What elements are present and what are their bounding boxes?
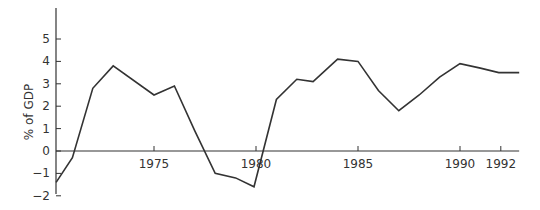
y-tick-label: 2 (42, 99, 50, 113)
y-tick-label: −2 (32, 189, 50, 203)
line-chart: −2−1012345 19751980198519901992 % of GDP (0, 0, 540, 210)
x-tick-label: 1992 (486, 157, 517, 171)
y-tick-label: 1 (42, 122, 50, 136)
y-tick-label: 3 (42, 77, 50, 91)
y-tick-label: −1 (32, 166, 50, 180)
y-tick-label: 4 (42, 54, 50, 68)
x-tick-label: 1990 (445, 157, 476, 171)
x-tick-label: 1975 (139, 157, 170, 171)
y-tick-label: 5 (42, 32, 50, 46)
x-tick-label: 1980 (241, 157, 272, 171)
y-axis-title: % of GDP (22, 84, 36, 140)
x-axis-zero-line: 19751980198519901992 (56, 146, 519, 171)
y-axis: −2−1012345 (32, 8, 61, 203)
x-tick-label: 1985 (343, 157, 374, 171)
y-tick-label: 0 (42, 144, 50, 158)
